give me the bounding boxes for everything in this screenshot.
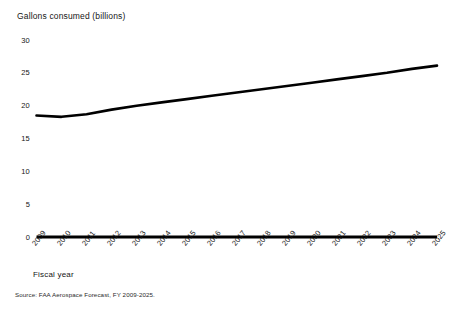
y-axis-title: Gallons consumed (billions) xyxy=(17,11,125,21)
y-axis-tick-label: 30 xyxy=(8,36,30,45)
plot-area xyxy=(0,0,460,311)
x-axis-tick-label: 2014 xyxy=(155,229,173,248)
x-axis-tick-label: 2018 xyxy=(255,229,273,248)
x-axis-tick-label: 2021 xyxy=(330,229,348,248)
data-series-line xyxy=(37,66,438,117)
y-axis-tick-label: 20 xyxy=(8,101,30,110)
x-axis-tick-label: 2009 xyxy=(30,229,48,248)
x-axis-tick-label: 2022 xyxy=(355,229,373,248)
y-axis-tick-label: 10 xyxy=(8,167,30,176)
x-axis-tick-label: 2019 xyxy=(280,229,298,248)
y-axis-tick-label: 25 xyxy=(8,68,30,77)
x-axis-tick-label: 2010 xyxy=(55,229,73,248)
source-note: Source: FAA Aerospace Forecast, FY 2009-… xyxy=(15,291,155,298)
x-axis-tick-label: 2025 xyxy=(430,229,448,248)
x-axis-tick-label: 2020 xyxy=(305,229,323,248)
x-axis-tick-label: 2011 xyxy=(80,229,97,248)
y-axis-tick-label: 0 xyxy=(8,233,30,242)
y-axis-tick-label: 15 xyxy=(8,134,30,143)
chart-svg xyxy=(0,0,460,311)
y-axis-tick-label: 5 xyxy=(8,200,30,209)
chart-container: Gallons consumed (billions) 051015202530… xyxy=(0,0,460,311)
x-axis-tick-label: 2023 xyxy=(380,229,398,248)
x-axis-tick-label: 2017 xyxy=(230,229,248,248)
x-axis-tick-label: 2015 xyxy=(180,229,198,248)
x-axis-tick-label: 2013 xyxy=(130,229,148,248)
x-axis-tick-label: 2024 xyxy=(405,229,423,248)
x-axis-tick-label: 2016 xyxy=(205,229,223,248)
x-axis-title: Fiscal year xyxy=(33,270,74,279)
x-axis-tick-label: 2012 xyxy=(105,229,123,248)
